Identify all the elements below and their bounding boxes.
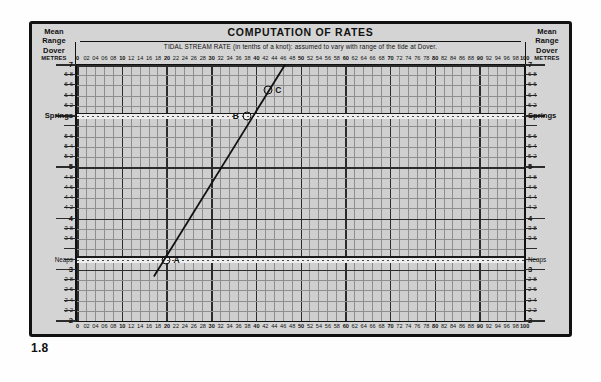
x-tick-label: 70 — [387, 55, 393, 61]
title-divider — [80, 41, 521, 42]
y-tick-label: 5·6 — [528, 133, 537, 139]
x-tick-label: 26 — [191, 55, 197, 61]
x-tick-label: 24 — [182, 323, 188, 329]
y-tick — [64, 248, 76, 249]
x-tick-label: 78 — [423, 55, 429, 61]
x-tick-label: 96 — [504, 55, 510, 61]
x-tick-label: 82 — [441, 323, 447, 329]
x-tick-label: 30 — [209, 55, 215, 61]
y-tick-label: 4·2 — [528, 204, 537, 210]
y-tick-label: 2·8 — [64, 276, 73, 282]
x-tick-label: 04 — [92, 55, 98, 61]
chart-frame: Mean Range Dover Mean Range Dover COMPUT… — [29, 21, 572, 337]
y-tick-label: 5·4 — [528, 143, 537, 149]
x-tick-label: 44 — [271, 55, 277, 61]
x-tick-label: 50 — [298, 55, 304, 61]
x-tick-label: 72 — [396, 55, 402, 61]
x-tick-label: 58 — [334, 323, 340, 329]
x-tick-label: 80 — [432, 323, 438, 329]
y-tick-label: 4·6 — [64, 184, 73, 190]
corner-right-line1: Mean — [525, 27, 569, 36]
x-tick-label: 48 — [289, 323, 295, 329]
x-tick-label: 48 — [289, 55, 295, 61]
y-tick-label: 4 — [69, 213, 73, 222]
x-tick-label: 54 — [316, 55, 322, 61]
y-tick-label: 3·6 — [528, 235, 537, 241]
y-axis-right: 22·22·42·62·83Neaps3·63·844·24·44·64·855… — [525, 64, 569, 322]
x-tick-label: 16 — [146, 323, 152, 329]
x-tick-label: 22 — [173, 55, 179, 61]
x-tick-label: 32 — [218, 55, 224, 61]
y-reference-label-springs: Springs — [528, 111, 556, 120]
x-tick-label: 04 — [92, 323, 98, 329]
x-tick-label: 86 — [459, 323, 465, 329]
y-tick-label: 6·4 — [528, 92, 537, 98]
x-tick-label: 16 — [146, 55, 152, 61]
x-tick-label: 76 — [414, 55, 420, 61]
x-tick-label: 64 — [361, 55, 367, 61]
chart-title: COMPUTATION OF RATES — [76, 26, 525, 41]
y-tick — [525, 248, 537, 249]
y-tick — [64, 125, 76, 126]
grid-vline — [524, 65, 525, 321]
x-tick-label: 42 — [262, 55, 268, 61]
x-tick-label: 30 — [209, 323, 215, 329]
data-overlay: ABC — [77, 65, 524, 321]
data-point-label-c: C — [275, 85, 281, 95]
x-tick-label: 20 — [164, 323, 170, 329]
x-tick-label: 46 — [280, 323, 286, 329]
x-tick-label: 60 — [343, 323, 349, 329]
x-tick-label: 94 — [495, 323, 501, 329]
x-tick-label: 84 — [450, 55, 456, 61]
chart-panel: Mean Range Dover Mean Range Dover COMPUT… — [32, 24, 569, 334]
y-tick-label: 5 — [528, 162, 532, 171]
x-tick-label: 12 — [128, 55, 134, 61]
grid-hline — [77, 321, 524, 322]
x-tick-label: 24 — [182, 55, 188, 61]
corner-left-line2: Range — [32, 36, 76, 45]
x-tick-label: 28 — [200, 323, 206, 329]
y-tick-label: 2·4 — [528, 297, 537, 303]
y-tick-label: 2·2 — [64, 307, 73, 313]
y-tick-label: 3·8 — [528, 225, 537, 231]
x-tick-label: 26 — [191, 323, 197, 329]
y-tick-label: 7 — [69, 60, 73, 69]
x-tick-label: 72 — [396, 323, 402, 329]
x-tick-label: 62 — [352, 323, 358, 329]
x-tick-label: 46 — [280, 55, 286, 61]
x-tick-label: 92 — [486, 55, 492, 61]
figure-number: 1.8 — [31, 341, 49, 355]
x-tick-label: 02 — [83, 55, 89, 61]
y-tick-label: 3 — [528, 264, 532, 273]
y-tick — [525, 125, 537, 126]
y-tick-label: 5 — [69, 162, 73, 171]
y-tick-label: 6·8 — [64, 71, 73, 77]
x-tick-label: 38 — [244, 55, 250, 61]
y-tick-label: 5·4 — [64, 143, 73, 149]
x-tick-label: 36 — [235, 55, 241, 61]
x-tick-label: 52 — [307, 323, 313, 329]
x-tick-label: 74 — [405, 55, 411, 61]
data-point-c — [264, 85, 273, 94]
y-tick-label: 4·8 — [64, 174, 73, 180]
x-tick-label: 08 — [110, 55, 116, 61]
x-tick-label: 02 — [83, 323, 89, 329]
x-tick-label: 90 — [477, 323, 483, 329]
x-tick-label: 0 — [76, 323, 79, 329]
x-tick-label: 92 — [486, 323, 492, 329]
y-tick-label: 6·2 — [64, 102, 73, 108]
plot-area: ABC — [76, 64, 525, 322]
y-tick-label: 6·4 — [64, 92, 73, 98]
y-tick — [56, 269, 76, 271]
data-point-label-a: A — [173, 255, 179, 265]
y-tick-label: 3·6 — [64, 235, 73, 241]
x-tick-label: 58 — [334, 55, 340, 61]
y-tick-label: 3·8 — [64, 225, 73, 231]
x-tick-label: 12 — [128, 323, 134, 329]
x-tick-label: 18 — [155, 323, 161, 329]
x-tick-label: 38 — [244, 323, 250, 329]
y-tick-label: 2·4 — [64, 297, 73, 303]
x-tick-label: 66 — [369, 55, 375, 61]
y-reference-label-neaps: Neaps — [528, 255, 546, 262]
x-tick-label: 40 — [253, 55, 259, 61]
